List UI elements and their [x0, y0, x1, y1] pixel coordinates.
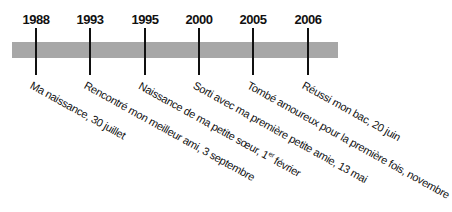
year-label: 1995	[132, 12, 159, 27]
tick-1988	[35, 28, 37, 75]
tick-1993	[89, 28, 91, 75]
year-label: 2005	[240, 12, 267, 27]
year-label: 2006	[295, 12, 322, 27]
event-label: Ma naissance, 30 juillet	[28, 79, 128, 141]
year-label: 2000	[186, 12, 213, 27]
timeline-bar	[12, 42, 338, 58]
event-label: Tombé amoureux pour la première fois, no…	[245, 79, 452, 201]
event-label: Réussi mon bac, 20 juin	[300, 79, 402, 143]
tick-2000	[198, 28, 200, 75]
year-label: 1993	[77, 12, 104, 27]
tick-2005	[252, 28, 254, 75]
tick-2006	[307, 28, 309, 75]
tick-1995	[144, 28, 146, 75]
year-label: 1988	[23, 12, 50, 27]
